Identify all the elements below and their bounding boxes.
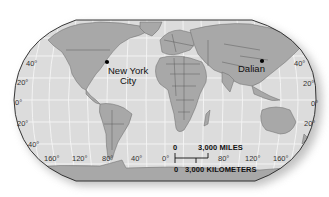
world-map: New York City Dalian 40° 20° 0° 20° 40° … xyxy=(0,0,329,197)
city-label-new-york: New York City xyxy=(108,66,148,86)
lon-label-160e: 160° xyxy=(273,155,289,163)
lat-label-right-20s: 20° xyxy=(304,120,315,128)
lat-label-left-20n: 20° xyxy=(17,79,28,87)
australia xyxy=(261,107,296,134)
scale-miles-zero: 0 xyxy=(173,144,177,152)
lat-label-right-40n: 40° xyxy=(294,60,305,68)
lon-label-120w: 120° xyxy=(72,155,88,163)
lat-label-left-40n: 40° xyxy=(26,60,37,68)
scale-km-label: 3,000 KILOMETERS xyxy=(185,166,257,174)
lon-label-160w: 160° xyxy=(44,155,60,163)
lat-label-left-40s: 40° xyxy=(28,141,39,149)
map-graphic xyxy=(0,0,329,197)
lon-label-80w: 80° xyxy=(102,155,113,163)
lat-label-left-20s: 20° xyxy=(17,120,28,128)
city-label-dalian: Dalian xyxy=(238,64,265,74)
lon-label-80e: 80° xyxy=(218,155,229,163)
lat-label-right-0: 0° xyxy=(311,100,318,108)
new-york-marker[interactable] xyxy=(105,60,109,64)
lon-label-0: 0° xyxy=(162,155,169,163)
lat-label-right-20n: 20° xyxy=(303,80,314,88)
scale-km-zero: 0 xyxy=(174,166,178,174)
lat-label-left-0: 0° xyxy=(15,99,22,107)
city-label-line-2: City xyxy=(108,76,148,86)
scale-miles-label: 3,000 MILES xyxy=(198,144,243,152)
lon-label-120e: 120° xyxy=(245,155,261,163)
lon-label-40w: 40° xyxy=(131,155,142,163)
